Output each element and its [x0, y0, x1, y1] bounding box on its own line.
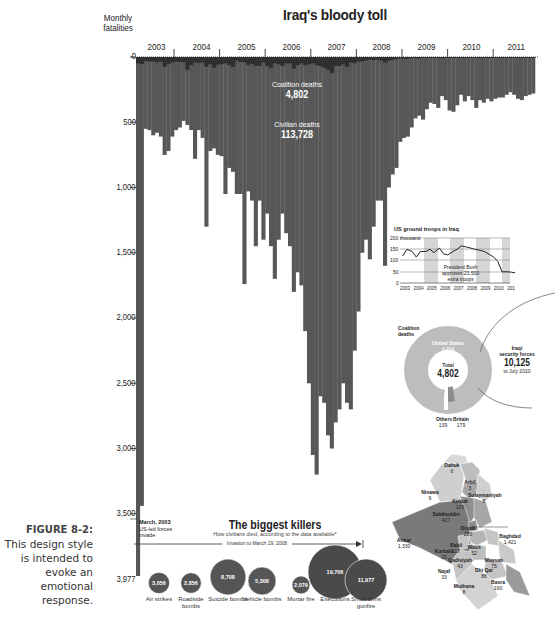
donut-us-label: United States 4,484 [426, 340, 470, 352]
map-region-label: Dahuk6 [436, 462, 468, 474]
isf-note: to July 2010 [494, 368, 540, 374]
donut-title: Coalition deaths [398, 325, 419, 337]
map-region-label: Salahuddin427 [430, 511, 462, 523]
others-value: 139 [436, 422, 450, 428]
map-region-label: Kirkuk106 [444, 498, 476, 510]
map-region-label: Muthana8 [448, 583, 480, 595]
britain-value: 179 [452, 422, 470, 428]
donut-others-label: Others 139 [436, 416, 450, 428]
isf-value: 10,125 [497, 357, 536, 368]
map-region-label: Diyala280 [452, 525, 484, 537]
map-region-label: Arbil3 [454, 479, 486, 491]
total-value: 4,802 [434, 368, 461, 379]
map-region-label: Najaf33 [428, 568, 460, 580]
map-region-label: Dhi Qar88 [468, 567, 500, 579]
donut-britain-label: Britain 179 [452, 416, 470, 428]
map-region-label: Ninawa9 [414, 489, 446, 501]
iraqi-security-forces: Iraqi security forces 10,125 to July 201… [494, 345, 540, 374]
us-value: 4,484 [426, 346, 470, 352]
donut-center: Total 4,802 [432, 362, 464, 379]
map-region-label: Basra190 [482, 579, 514, 591]
map-region-label: Anbar1,330 [388, 537, 420, 549]
donut-title-line2: deaths [398, 331, 419, 337]
map-region-label: Baghdad1,421 [494, 533, 526, 545]
map-region-label: Wasit52 [458, 544, 490, 556]
